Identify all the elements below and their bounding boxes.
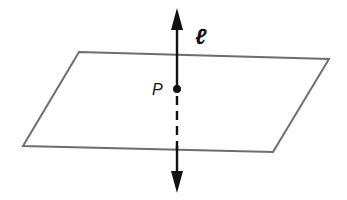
point-label: P — [152, 81, 163, 98]
diagram-canvas: ℓ P — [0, 0, 347, 200]
line-label: ℓ — [195, 24, 207, 49]
point-p-dot — [173, 85, 181, 93]
arrow-down-icon — [171, 171, 183, 193]
arrow-up-icon — [171, 8, 183, 30]
